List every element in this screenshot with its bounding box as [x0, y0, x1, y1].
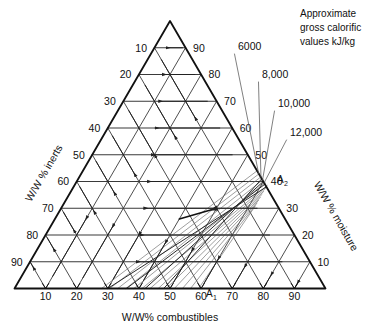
- tick-label-bottom: 20: [71, 290, 83, 302]
- tick-label-right: 80: [209, 68, 221, 80]
- tick-label-bottom: 40: [133, 290, 145, 302]
- ternary-diagram-figure: 1020304050607080901020304050607080909080…: [0, 0, 375, 328]
- axis-title-bottom: W/W% combustibles: [122, 311, 218, 323]
- tick-label-bottom: 90: [289, 290, 301, 302]
- tick-label-bottom: 80: [257, 290, 269, 302]
- legend-line-2: gross calorific: [300, 22, 361, 33]
- axis-title-bottom-text: W/W% combustibles: [122, 311, 218, 323]
- tick-label-left: 60: [58, 175, 70, 187]
- tick-label-right: 70: [224, 95, 236, 107]
- point-label-subscript: 2: [284, 180, 288, 187]
- legend-line-1: Approximate: [300, 8, 357, 19]
- tick-label-left: 20: [120, 68, 132, 80]
- calorific-value-label: 12,000: [290, 126, 322, 138]
- tick-label-left: 10: [135, 42, 147, 54]
- canvas-background: [0, 0, 375, 328]
- tick-label-left: 50: [73, 149, 85, 161]
- point-label-subscript: 1: [213, 294, 217, 301]
- tick-label-left: 40: [89, 122, 101, 134]
- legend-line-3: values kJ/kg: [300, 36, 355, 47]
- tick-label-left: 80: [26, 229, 38, 241]
- tick-label-right: 90: [193, 42, 205, 54]
- tick-label-bottom: 30: [102, 290, 114, 302]
- legend-note: Approximate gross calorific values kJ/kg: [300, 8, 361, 47]
- tick-label-bottom: 70: [226, 290, 238, 302]
- tick-label-bottom: 50: [164, 290, 176, 302]
- tick-label-right: 50: [255, 149, 267, 161]
- tick-label-left: 70: [42, 202, 54, 214]
- calorific-value-label: 8,000: [262, 68, 288, 80]
- calorific-value-label: 10,000: [278, 97, 310, 109]
- tick-label-bottom: 10: [40, 290, 52, 302]
- tick-label-right: 10: [318, 256, 330, 268]
- tick-label-right: 30: [286, 202, 298, 214]
- calorific-value-label: 6000: [238, 40, 262, 52]
- ternary-diagram-svg: 1020304050607080901020304050607080909080…: [0, 0, 375, 328]
- tick-label-left: 30: [104, 95, 116, 107]
- tick-label-left: 90: [11, 256, 23, 268]
- tick-label-right: 20: [302, 229, 314, 241]
